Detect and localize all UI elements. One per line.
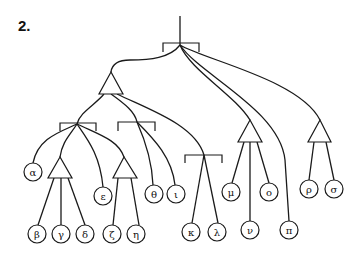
leaf-alpha: α [24,163,42,181]
leaf-pi: π [280,221,298,239]
brackets [60,43,222,163]
leaf-omicron: ο [260,183,278,201]
tree-diagram: 2. [0,0,360,255]
leaf-label: ε [100,191,105,202]
leaf-rho: ρ [300,180,318,198]
bracket-middle [118,122,155,131]
edge-left-triangle [60,124,77,157]
leaf-label: π [286,225,293,236]
edge-big-middle-bracket [111,94,137,122]
edge-left-epsilon [77,124,103,187]
edge-mu [232,142,244,183]
edge-kappa [192,155,204,223]
leaf-lambda: λ [208,223,226,241]
leaf-iota: ι [167,185,185,203]
leaf-label: ο [266,187,272,198]
leaf-gamma: γ [52,225,70,243]
leaf-label: γ [58,229,64,240]
leaf-label: μ [228,187,235,198]
edge-big-left-bracket [77,94,104,124]
leaf-label: λ [214,227,221,238]
triangle-mu-nu-omicron [238,120,262,142]
edge-left-alpha [33,124,77,163]
leaf-eta: η [127,225,145,243]
leaf-label: ι [174,189,178,200]
leaf-label: η [133,229,139,240]
leaf-label: θ [151,189,157,200]
leaves: α β γ δ ε ζ η θ ι κ λ μ ν ο π ρ σ [24,163,343,243]
edge-middle-iota [137,122,175,185]
edge-eta [131,178,139,225]
edge-rho [309,142,314,180]
edge-left-zeta-triangle [77,124,124,157]
edge-lambda [204,155,218,223]
edge-omicron [257,142,269,183]
triangle-rho-sigma [308,120,331,142]
edge-beta [38,178,54,225]
edge-middle-theta [137,122,153,185]
leaf-delta: δ [76,225,94,243]
leaf-label: ζ [109,229,115,240]
leaf-label: β [34,229,40,240]
leaf-label: α [30,167,37,178]
edge-sigma [326,142,334,180]
triangle-zeta-eta [113,157,137,178]
edge-root-rho-triangle [180,45,320,120]
triangle-big [99,72,123,94]
leaf-mu: μ [222,183,240,201]
leaf-zeta: ζ [103,225,121,243]
leaf-beta: β [28,225,46,243]
triangle-beta-gamma-delta [48,157,72,178]
leaf-theta: θ [145,185,163,203]
leaf-label: ν [247,225,253,236]
edge-root-big-triangle [111,45,180,72]
edge-delta [68,178,85,225]
leaf-nu: ν [241,221,259,239]
leaf-kappa: κ [182,223,200,241]
triangles [48,72,331,178]
leaf-label: σ [331,184,338,195]
leaf-label: δ [82,229,88,240]
leaf-label: ρ [306,184,312,195]
figure-number: 2. [18,17,31,34]
leaf-sigma: σ [325,180,343,198]
edge-big-right-bracket [117,94,204,155]
leaf-label: κ [188,227,195,238]
edge-zeta [113,178,118,225]
leaf-epsilon: ε [94,187,112,205]
